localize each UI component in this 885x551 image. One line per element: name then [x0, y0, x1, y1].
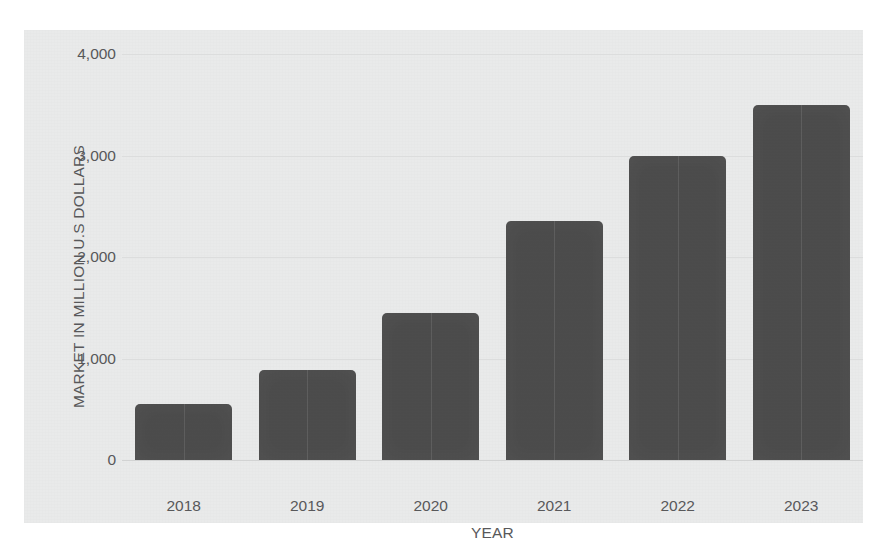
- bar[interactable]: [259, 370, 356, 460]
- x-tick-label: 2020: [369, 497, 493, 515]
- bar[interactable]: [506, 221, 603, 460]
- bar-seam: [431, 313, 432, 460]
- bar-seam: [801, 105, 802, 460]
- bars-layer: [122, 30, 863, 523]
- bar[interactable]: [135, 404, 232, 460]
- x-axis-title: YEAR: [122, 524, 863, 542]
- y-axis-title: MARKET IN MILLION U.S DOLLARS: [66, 30, 92, 523]
- x-tick-label: 2021: [493, 497, 617, 515]
- bar-chart-figure: 01,0002,0003,0004,000 201820192020202120…: [0, 0, 885, 551]
- bar-seam: [554, 221, 555, 460]
- x-tick-label: 2023: [740, 497, 864, 515]
- x-tick-label: 2022: [616, 497, 740, 515]
- bar-seam: [307, 370, 308, 460]
- bar[interactable]: [382, 313, 479, 460]
- plot-panel: 01,0002,0003,0004,000 201820192020202120…: [24, 30, 863, 523]
- x-tick-label: 2018: [122, 497, 246, 515]
- bar[interactable]: [753, 105, 850, 460]
- bar-seam: [184, 404, 185, 460]
- x-tick-label: 2019: [246, 497, 370, 515]
- bar-seam: [678, 156, 679, 461]
- bar[interactable]: [629, 156, 726, 461]
